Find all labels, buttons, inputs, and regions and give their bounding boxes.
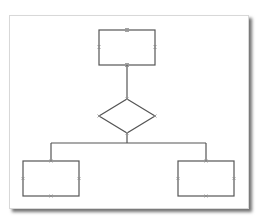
connection-markers [22,29,236,198]
flowchart [0,0,259,222]
connection-point-icon [154,45,157,49]
process-box-left[interactable] [23,161,79,196]
decision-diamond[interactable] [99,99,155,133]
connection-point-icon [98,45,101,49]
process-box-right[interactable] [178,161,234,196]
process-box-top[interactable] [99,30,155,65]
